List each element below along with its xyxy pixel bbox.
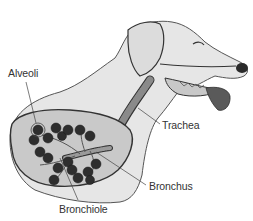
dog-tongue xyxy=(206,87,230,110)
dog-illustration xyxy=(0,0,253,221)
label-alveoli: Alveoli xyxy=(8,68,38,79)
respiratory-diagram: Alveoli Trachea Bronchus Bronchiole xyxy=(0,0,253,221)
dog-nose xyxy=(236,63,248,73)
label-bronchus: Bronchus xyxy=(149,181,193,192)
label-bronchiole: Bronchiole xyxy=(59,204,108,215)
label-trachea: Trachea xyxy=(162,120,199,131)
